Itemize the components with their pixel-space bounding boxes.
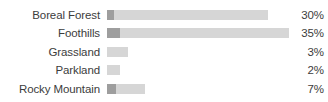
chart-row: Grassland 3% — [0, 43, 328, 61]
value-label: 2% — [290, 64, 324, 77]
value-label: 7% — [290, 83, 324, 96]
category-label: Foothills — [0, 27, 100, 40]
value-label: 30% — [290, 9, 324, 22]
chart-row: Foothills 35% — [0, 24, 328, 42]
chart-row: Parkland 2% — [0, 61, 328, 79]
bar-cap — [107, 84, 116, 94]
category-label: Boreal Forest — [0, 9, 100, 22]
bar — [107, 65, 120, 75]
category-label: Rocky Mountain — [0, 83, 100, 96]
category-label: Grassland — [0, 46, 100, 59]
bar — [107, 84, 145, 94]
value-label: 35% — [290, 27, 324, 40]
bar-track — [107, 6, 295, 24]
bar-track — [107, 43, 295, 61]
bar-cap — [107, 28, 120, 38]
chart-row: Rocky Mountain 7% — [0, 80, 328, 98]
bar-track — [107, 80, 295, 98]
horizontal-bar-chart: Boreal Forest 30% Foothills 35% Grasslan… — [0, 0, 328, 102]
bar-track — [107, 61, 295, 79]
bar-track — [107, 24, 295, 42]
bar-cap — [107, 10, 114, 20]
value-label: 3% — [290, 46, 324, 59]
category-label: Parkland — [0, 64, 100, 77]
bar — [107, 47, 128, 57]
bar — [107, 10, 268, 20]
chart-row: Boreal Forest 30% — [0, 6, 328, 24]
bar — [107, 28, 289, 38]
